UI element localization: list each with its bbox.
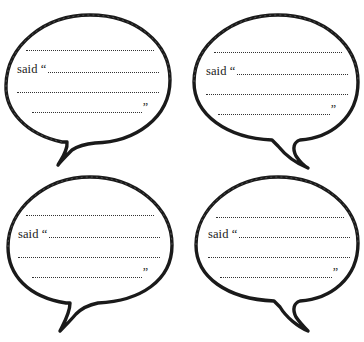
closing-quote: ” bbox=[143, 266, 148, 278]
said-line[interactable]: said “ bbox=[208, 225, 350, 238]
blank-line-3[interactable] bbox=[208, 245, 350, 258]
speech-bubble-bottom-right: said “ ” bbox=[182, 171, 364, 342]
blank-line-4[interactable]: ” bbox=[220, 265, 332, 278]
speech-bubble-top-left: said “ ” bbox=[0, 0, 182, 171]
speech-bubble-bottom-left: said “ ” bbox=[0, 171, 182, 342]
blank-line-4[interactable]: ” bbox=[32, 265, 142, 278]
closing-quote: ” bbox=[143, 101, 148, 113]
blank-line-1[interactable] bbox=[216, 205, 344, 218]
speech-bubble-top-right: said “ ” bbox=[182, 0, 364, 171]
closing-quote: ” bbox=[333, 266, 338, 278]
blank-line-3[interactable] bbox=[206, 82, 348, 95]
said-line[interactable]: said “ bbox=[206, 62, 348, 75]
closing-quote: ” bbox=[331, 103, 336, 115]
blank-line-4[interactable]: ” bbox=[32, 100, 142, 113]
blank-line-1[interactable] bbox=[26, 38, 154, 51]
blank-line-3[interactable] bbox=[17, 80, 159, 93]
blank-line-3[interactable] bbox=[18, 245, 160, 258]
said-label: said “ bbox=[206, 65, 237, 77]
said-label: said “ bbox=[17, 63, 48, 75]
blank-line-1[interactable] bbox=[214, 40, 342, 53]
blank-line-1[interactable] bbox=[26, 203, 154, 216]
blank-line-4[interactable]: ” bbox=[218, 102, 330, 115]
said-line[interactable]: said “ bbox=[17, 60, 159, 73]
said-label: said “ bbox=[18, 228, 49, 240]
said-line[interactable]: said “ bbox=[18, 225, 160, 238]
said-label: said “ bbox=[208, 228, 239, 240]
